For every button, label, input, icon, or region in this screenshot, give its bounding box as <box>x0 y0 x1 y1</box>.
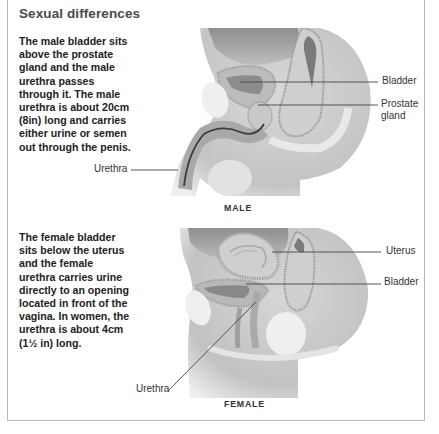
female-label-uterus: Uterus <box>386 245 415 257</box>
male-label-bladder: Bladder <box>382 75 416 87</box>
male-leader-lines <box>0 0 439 200</box>
female-label-bladder: Bladder <box>384 276 418 288</box>
male-label-prostate-gland: Prostate gland <box>381 98 421 122</box>
female-label-urethra: Urethra <box>136 383 169 395</box>
female-caption: FEMALE <box>224 399 265 409</box>
male-label-urethra: Urethra <box>94 163 127 175</box>
female-leader-lines <box>0 190 439 434</box>
